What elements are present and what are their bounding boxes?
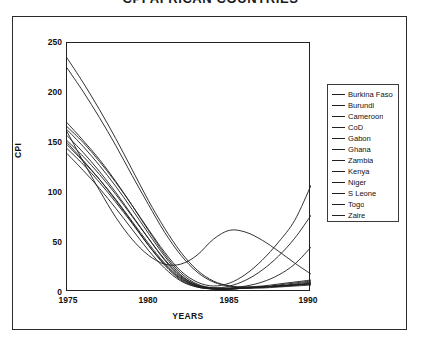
legend-item-label: Zambia <box>348 155 373 166</box>
y-tick-100: 100 <box>22 188 62 197</box>
x-axis-label: YEARS <box>66 311 310 321</box>
x-tick-1985: 1985 <box>204 296 254 305</box>
chart-lines-svg <box>67 43 311 292</box>
legend-item-label: Burkina Faso <box>348 89 393 100</box>
y-tick-50: 50 <box>22 238 62 247</box>
plot-area <box>66 42 310 291</box>
legend-item-label: Ghana <box>348 144 371 155</box>
series-line <box>67 58 311 288</box>
legend-line-swatch <box>332 116 345 117</box>
legend-item-burkina-faso[interactable]: Burkina Faso <box>332 89 395 100</box>
legend-line-swatch <box>332 160 345 161</box>
x-tick-1980: 1980 <box>123 296 173 305</box>
legend-item-label: Gabon <box>348 133 371 144</box>
legend-line-swatch <box>332 138 345 139</box>
legend-line-swatch <box>332 127 345 128</box>
legend-item-label: Zaire <box>348 210 365 221</box>
legend-item-label: CoD <box>348 122 363 133</box>
y-axis-label: CPI <box>13 143 23 158</box>
legend-line-swatch <box>332 171 345 172</box>
y-tick-150: 150 <box>22 138 62 147</box>
legend-line-swatch <box>332 94 345 95</box>
legend-item-label: Kenya <box>348 166 370 177</box>
legend-item-label: Togo <box>348 199 364 210</box>
series-line <box>67 136 311 290</box>
x-axis-tick-labels: 1975 1980 1985 1990 <box>0 296 421 310</box>
x-tick-1990: 1990 <box>283 296 333 305</box>
series-line <box>67 154 311 290</box>
legend-item-niger[interactable]: Niger <box>332 177 395 188</box>
series-line <box>67 132 311 274</box>
legend-line-swatch <box>332 215 345 216</box>
legend-line-swatch <box>332 204 345 205</box>
legend-item-ghana[interactable]: Ghana <box>332 144 395 155</box>
legend-line-swatch <box>332 182 345 183</box>
y-tick-200: 200 <box>22 88 62 97</box>
legend-item-kenya[interactable]: Kenya <box>332 166 395 177</box>
series-line <box>67 141 311 289</box>
series-line <box>67 68 311 287</box>
legend-item-togo[interactable]: Togo <box>332 199 395 210</box>
legend-item-zambia[interactable]: Zambia <box>332 155 395 166</box>
legend-item-zaire[interactable]: Zaire <box>332 210 395 221</box>
legend-item-cod[interactable]: CoD <box>332 122 395 133</box>
legend-item-label: Cameroon <box>348 111 383 122</box>
chart-legend: Burkina Faso Burundi Cameroon CoD Gabon … <box>327 84 399 222</box>
chart-title: CPI AFRICAN COUNTRIES <box>0 0 421 6</box>
legend-item-s-leone[interactable]: S Leone <box>332 188 395 199</box>
legend-item-gabon[interactable]: Gabon <box>332 133 395 144</box>
legend-item-cameroon[interactable]: Cameroon <box>332 111 395 122</box>
legend-item-label: Burundi <box>348 100 374 111</box>
series-line <box>67 149 311 288</box>
series-line <box>67 130 311 290</box>
legend-line-swatch <box>332 105 345 106</box>
legend-item-label: S Leone <box>348 188 376 199</box>
y-tick-250: 250 <box>22 38 62 47</box>
legend-line-swatch <box>332 193 345 194</box>
x-tick-1975: 1975 <box>43 296 93 305</box>
y-axis-tick-labels: 250 200 150 100 50 0 <box>18 0 62 346</box>
legend-line-swatch <box>332 149 345 150</box>
legend-item-burundi[interactable]: Burundi <box>332 100 395 111</box>
legend-item-label: Niger <box>348 177 366 188</box>
